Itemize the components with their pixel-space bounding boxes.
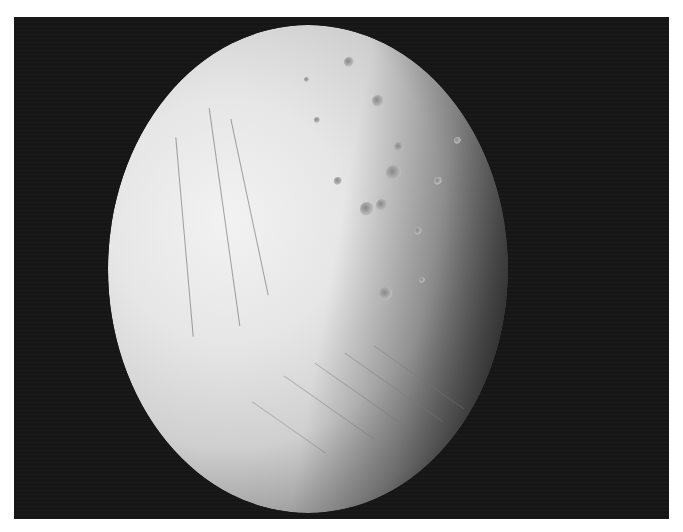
crater (394, 142, 404, 152)
crater (304, 77, 309, 82)
crater (360, 202, 374, 216)
crater (434, 177, 442, 185)
crater (379, 287, 393, 301)
crater (334, 177, 342, 185)
crater (454, 137, 461, 144)
crater (376, 199, 388, 211)
space-background (14, 17, 669, 519)
crater (414, 227, 422, 235)
crater (372, 95, 384, 107)
crater (386, 165, 402, 181)
crater (419, 277, 425, 283)
crater (314, 117, 320, 123)
crater (344, 57, 354, 67)
